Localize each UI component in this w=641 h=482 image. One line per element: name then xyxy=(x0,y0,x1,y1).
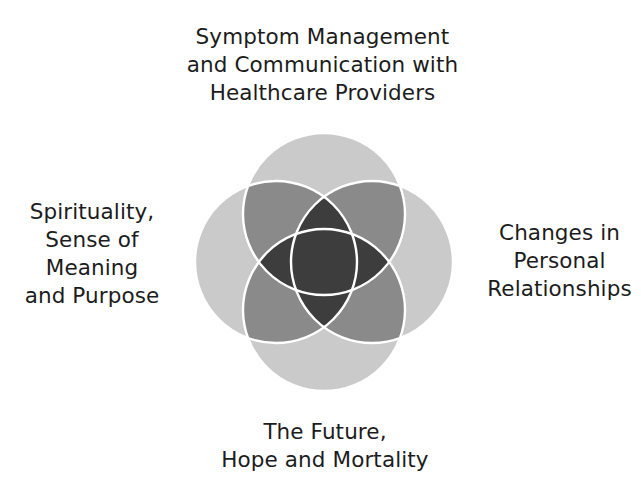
venn-diagram-figure: Symptom Management and Communication wit… xyxy=(0,0,641,482)
venn-label-left: Spirituality, Sense of Meaning and Purpo… xyxy=(8,198,176,310)
venn-label-top: Symptom Management and Communication wit… xyxy=(150,23,495,107)
venn-label-right: Changes in Personal Relationships xyxy=(482,219,637,303)
venn-label-bottom: The Future, Hope and Mortality xyxy=(175,418,475,474)
